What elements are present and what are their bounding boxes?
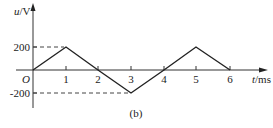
x-axis-arrow-icon (259, 68, 268, 73)
x-tick-label-6: 6 (227, 73, 233, 85)
x-tick-label-1: 1 (63, 73, 69, 85)
x-axis-label: t/ms (252, 73, 271, 85)
x-tick-label-5: 5 (193, 73, 199, 85)
x-ticks (66, 66, 230, 70)
chart-svg: u/V 200 -200 O 1 2 3 4 5 6 t/ms (b) (0, 0, 273, 128)
x-tick-label-2: 2 (95, 73, 101, 85)
x-tick-label-3: 3 (128, 73, 134, 85)
y-tick-label-neg200: -200 (10, 87, 31, 99)
y-axis-arrow-icon (31, 3, 36, 11)
figure-caption: (b) (130, 107, 143, 120)
y-tick-label-200: 200 (14, 41, 31, 53)
y-axis-label: u/V (14, 5, 31, 17)
chart: u/V 200 -200 O 1 2 3 4 5 6 t/ms (b) (0, 0, 273, 128)
origin-label: O (22, 73, 30, 85)
x-tick-label-4: 4 (161, 73, 167, 85)
